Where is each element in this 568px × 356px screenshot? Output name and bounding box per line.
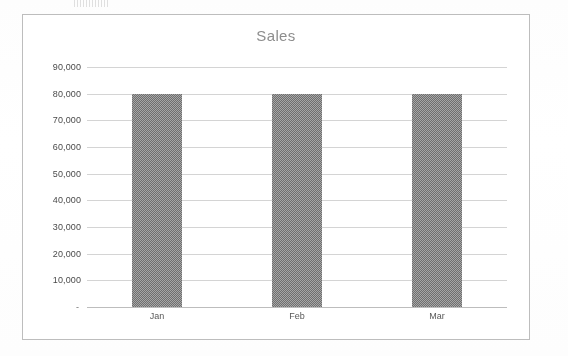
x-axis-category-label: Mar [429,311,445,321]
x-axis-category-labels: JanFebMar [87,311,507,329]
y-axis-tick-label: 50,000 [53,169,81,179]
y-axis-tick-label: 40,000 [53,195,81,205]
y-axis-tick-label: 80,000 [53,89,81,99]
y-axis-tick-label: 70,000 [53,115,81,125]
bar-series [87,67,507,307]
bar[interactable] [132,94,182,307]
bar[interactable] [412,94,462,307]
bar[interactable] [272,94,322,307]
y-axis-tick-label: 10,000 [53,275,81,285]
plot-area [87,67,507,307]
chart-frame[interactable]: Sales -10,00020,00030,00040,00050,00060,… [22,14,530,340]
x-axis-category-label: Feb [289,311,305,321]
gridline [87,307,507,308]
y-axis-tick-label: 60,000 [53,142,81,152]
scan-artifact-top [74,0,110,7]
y-axis-tick-label: 30,000 [53,222,81,232]
y-axis-tick-label: - [76,302,81,312]
x-axis-category-label: Jan [150,311,165,321]
chart-title: Sales [23,27,529,44]
y-axis-tick-labels: -10,00020,00030,00040,00050,00060,00070,… [23,67,81,307]
y-axis-tick-label: 90,000 [53,62,81,72]
y-axis-tick-label: 20,000 [53,249,81,259]
chart-screenshot: Sales -10,00020,00030,00040,00050,00060,… [0,0,568,356]
